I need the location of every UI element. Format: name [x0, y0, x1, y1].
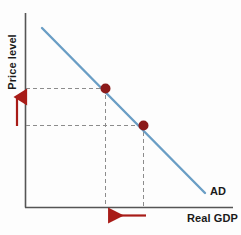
upper-equilibrium-point: [101, 84, 111, 94]
lower-equilibrium-point: [139, 121, 149, 131]
y-axis-label: Price level: [6, 34, 18, 90]
figure-background: [0, 0, 241, 235]
ad-curve-figure: Price level Real GDP AD: [0, 0, 241, 235]
ad-curve-label: AD: [210, 185, 226, 197]
x-axis-label: Real GDP: [187, 212, 238, 224]
